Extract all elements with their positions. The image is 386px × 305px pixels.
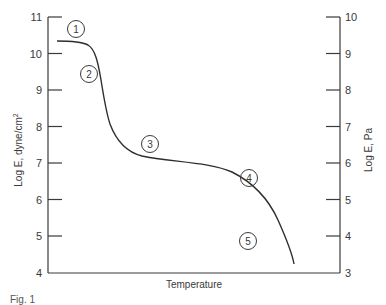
svg-text:2: 2 xyxy=(86,69,92,80)
svg-text:4: 4 xyxy=(246,173,252,184)
svg-text:9: 9 xyxy=(345,48,351,60)
svg-text:6: 6 xyxy=(36,194,42,206)
svg-text:4: 4 xyxy=(345,230,351,242)
svg-text:10: 10 xyxy=(345,11,357,23)
svg-text:8: 8 xyxy=(345,84,351,96)
svg-text:9: 9 xyxy=(36,84,42,96)
svg-text:7: 7 xyxy=(345,121,351,133)
svg-text:4: 4 xyxy=(36,267,42,279)
region-label-1: 1 xyxy=(68,21,85,38)
x-axis-title: Temperature xyxy=(166,279,223,290)
svg-text:5: 5 xyxy=(36,230,42,242)
svg-text:5: 5 xyxy=(245,236,251,247)
left-ticks xyxy=(48,17,62,236)
region-label-5: 5 xyxy=(240,233,257,250)
region-label-2: 2 xyxy=(81,66,98,83)
svg-text:10: 10 xyxy=(30,48,42,60)
left-tick-labels: 11 10 9 8 7 6 5 4 xyxy=(30,11,42,279)
left-axis-title: Log E, dyne/cm2 xyxy=(12,113,24,186)
right-ticks xyxy=(326,17,340,236)
right-tick-labels: 10 9 8 7 6 5 4 3 xyxy=(345,11,357,279)
right-axis-title: Log E, Pa xyxy=(363,128,374,172)
figure-caption: Fig. 1 xyxy=(10,294,35,305)
svg-text:1: 1 xyxy=(73,24,79,35)
svg-text:3: 3 xyxy=(147,139,153,150)
modulus-curve xyxy=(57,41,294,264)
svg-text:11: 11 xyxy=(31,11,42,23)
region-label-3: 3 xyxy=(142,136,159,153)
svg-text:7: 7 xyxy=(36,157,42,169)
svg-text:3: 3 xyxy=(345,267,351,279)
svg-text:8: 8 xyxy=(36,121,42,133)
svg-text:5: 5 xyxy=(345,194,351,206)
svg-text:6: 6 xyxy=(345,157,351,169)
